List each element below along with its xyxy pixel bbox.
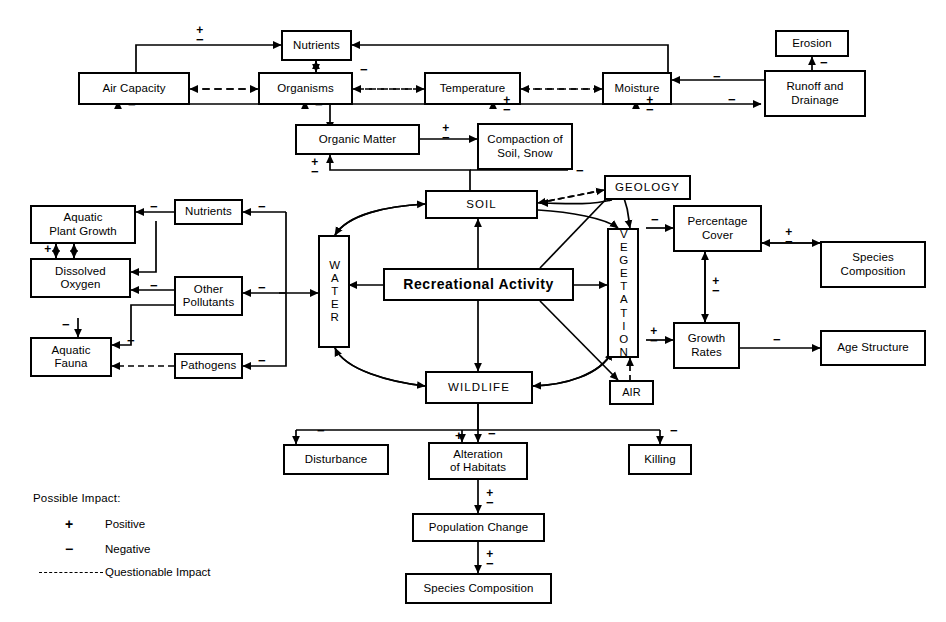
node-label-line2: Pollutants xyxy=(183,296,235,309)
node-label: Temperature xyxy=(440,82,506,95)
node-label: Recreational Activity xyxy=(403,276,554,292)
node-label: Erosion xyxy=(792,37,832,50)
node-label: GEOLOGY xyxy=(615,181,680,194)
minus-glyph: − xyxy=(650,334,658,347)
edge-sign-vegetation-growth-rates: + − xyxy=(650,325,658,347)
legend-plus-icon: + xyxy=(33,516,105,532)
minus-glyph: − xyxy=(311,165,319,178)
node-other-pollutants[interactable]: Other Pollutants xyxy=(174,276,243,316)
node-vegetation[interactable]: VEGETATION xyxy=(607,228,639,358)
node-label-line1: Alteration xyxy=(453,448,503,461)
node-label-line1: Aquatic xyxy=(51,344,90,357)
minus-glyph: − xyxy=(442,131,450,144)
node-recreational-activity[interactable]: Recreational Activity xyxy=(383,268,574,301)
minus-glyph: − xyxy=(486,557,494,570)
edge-sign-air-capacity-feedback: − xyxy=(128,98,136,111)
diagram-canvas: Organisms --> Temperature --> Moisture -… xyxy=(0,0,946,622)
node-label: Organic Matter xyxy=(319,133,396,146)
edge-sign-water-pollutants: − xyxy=(258,281,266,294)
edge-sign-growth-rates-age-structure: − xyxy=(773,333,781,346)
node-runoff-and-drainage[interactable]: Runoff and Drainage xyxy=(764,70,866,117)
node-organisms[interactable]: Organisms xyxy=(258,72,353,105)
node-label-line2: Drainage xyxy=(791,94,838,107)
node-label: Pathogens xyxy=(181,359,237,372)
node-nutrients-top[interactable]: Nutrients xyxy=(281,30,352,61)
node-age-structure[interactable]: Age Structure xyxy=(820,330,926,366)
node-pathogens[interactable]: Pathogens xyxy=(174,353,243,379)
node-air[interactable]: AIR xyxy=(609,380,654,405)
minus-glyph: − xyxy=(713,69,721,84)
node-label-line1: Dissolved xyxy=(55,265,106,278)
node-label-line2: Soil, Snow xyxy=(497,147,552,160)
node-label: Disturbance xyxy=(305,453,367,466)
node-species-composition-bottom[interactable]: Species Composition xyxy=(405,573,552,604)
node-aquatic-fauna[interactable]: Aquatic Fauna xyxy=(30,337,112,377)
node-soil[interactable]: SOIL xyxy=(425,190,538,219)
minus-glyph: − xyxy=(317,423,325,438)
legend-item-questionable: Questionable Impact xyxy=(33,566,210,578)
edge-sign-plant-growth-dissolved-oxygen: + − xyxy=(44,243,52,265)
minus-glyph: − xyxy=(488,426,496,441)
node-compaction-of-soil-snow[interactable]: Compaction of Soil, Snow xyxy=(477,123,573,170)
edge-sign-runoff-moisture: − xyxy=(713,70,721,83)
edge-sign-population-species: + − xyxy=(486,548,494,570)
node-wildlife[interactable]: WILDLIFE xyxy=(425,371,533,404)
node-label: Population Change xyxy=(429,521,529,534)
node-geology[interactable]: GEOLOGY xyxy=(604,175,691,200)
node-organic-matter[interactable]: Organic Matter xyxy=(295,124,420,155)
minus-glyph: − xyxy=(196,33,204,46)
edge-sign-wildlife-killing: − xyxy=(670,424,678,437)
edge-sign-vegetation-percentage-cover: − xyxy=(651,213,659,226)
node-label: AIR xyxy=(622,386,641,399)
edge-sign-pollutants-dissolved-oxygen: − xyxy=(150,279,158,292)
plus-glyph: + xyxy=(455,428,463,443)
node-killing[interactable]: Killing xyxy=(628,444,692,475)
node-water[interactable]: WATER xyxy=(318,235,350,348)
minus-glyph: − xyxy=(486,496,494,509)
edge-sign-organic-compaction: + − xyxy=(442,122,450,144)
node-species-composition-right[interactable]: Species Composition xyxy=(820,241,926,288)
minus-glyph: − xyxy=(258,280,266,295)
edge-sign-nutrients-aquatic-plant: − xyxy=(150,200,158,213)
node-disturbance[interactable]: Disturbance xyxy=(283,444,389,475)
node-label-line1: Other xyxy=(194,283,223,296)
node-label-line1: Growth xyxy=(688,332,726,345)
edge-sign-wildlife-alteration-plus: + xyxy=(455,429,463,442)
legend-title: Possible Impact: xyxy=(33,492,210,504)
node-nutrients-water[interactable]: Nutrients xyxy=(174,199,243,225)
minus-glyph: − xyxy=(773,332,781,347)
legend-item-positive: + Positive xyxy=(33,516,210,532)
node-label-line2: Composition xyxy=(840,265,905,278)
node-label-line2: Oxygen xyxy=(60,278,100,291)
legend: Possible Impact: + Positive − Negative Q… xyxy=(33,492,210,587)
node-alteration-of-habitats[interactable]: Alteration of Habitats xyxy=(428,442,528,480)
node-aquatic-plant-growth[interactable]: Aquatic Plant Growth xyxy=(30,205,136,244)
minus-glyph: − xyxy=(128,97,136,112)
minus-glyph: − xyxy=(646,103,654,116)
node-label: Killing xyxy=(644,453,675,466)
node-label: WATER xyxy=(328,259,340,325)
node-growth-rates[interactable]: Growth Rates xyxy=(673,322,740,369)
edge-sign-runoff-erosion: − xyxy=(820,56,828,69)
node-population-change[interactable]: Population Change xyxy=(412,513,545,542)
minus-glyph: − xyxy=(150,199,158,214)
node-label-line1: Runoff and xyxy=(786,80,843,93)
edge-sign-nutrients-organisms: − xyxy=(360,63,368,76)
node-moisture[interactable]: Moisture xyxy=(602,72,672,105)
node-label-line1: Aquatic xyxy=(63,211,102,224)
minus-glyph: − xyxy=(315,97,323,112)
node-label: VEGETATION xyxy=(617,228,629,359)
minus-glyph: − xyxy=(258,199,266,214)
minus-glyph: − xyxy=(651,212,659,227)
edge-sign-cover-species-composition: + − xyxy=(785,226,793,248)
minus-glyph: − xyxy=(360,62,368,77)
edge-sign-temperature-feedback: + − xyxy=(503,94,511,116)
node-label-line1: Compaction of xyxy=(487,133,562,146)
node-percentage-cover[interactable]: Percentage Cover xyxy=(673,205,762,252)
legend-item-label: Negative xyxy=(105,543,150,555)
edge-sign-alteration-population: + − xyxy=(486,487,494,509)
edge-sign-pollutants-fauna: − xyxy=(127,334,135,347)
node-erosion[interactable]: Erosion xyxy=(775,30,849,57)
node-label-line2: Plant Growth xyxy=(49,225,117,238)
node-label-line2: Fauna xyxy=(54,357,87,370)
